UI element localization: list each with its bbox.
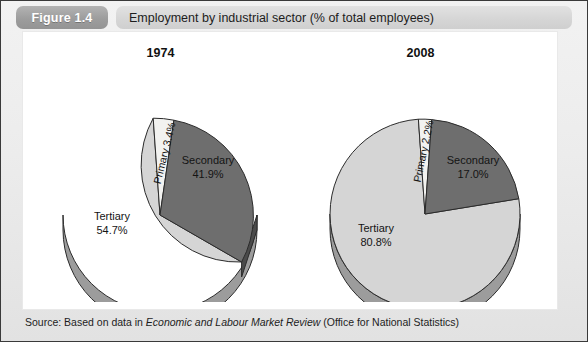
pie-label-secondary-1974: Secondary <box>182 154 235 166</box>
pie-slice-secondary-1974 <box>160 120 253 262</box>
pie-value-tertiary-1974: 54.7% <box>96 224 127 236</box>
pie-chart-2008: 2008 Primary 2.2% Secondary 17.0% Tertia… <box>288 32 553 309</box>
source-suffix: (Office for National Statistics) <box>320 316 459 328</box>
figure-container: Figure 1.4 Employment by industrial sect… <box>0 0 588 342</box>
pie-title-1974: 1974 <box>28 46 293 60</box>
source-prefix: Source: Based on data in <box>25 316 146 328</box>
pie-value-secondary-1974: 41.9% <box>192 168 223 180</box>
pie-label-secondary-2008: Secondary <box>447 154 500 166</box>
pie-value-secondary-2008: 17.0% <box>457 168 488 180</box>
source-publication-title: Economic and Labour Market Review <box>146 316 321 328</box>
figure-source-note: Source: Based on data in Economic and La… <box>25 316 459 328</box>
pie-svg-2008: Primary 2.2% Secondary 17.0% Tertiary 80… <box>288 62 553 302</box>
pie-slice-secondary-2008 <box>425 120 519 214</box>
chart-panel: 1974 Primary 3.4% Secondary 41.9% Tertia… <box>23 32 557 309</box>
figure-title-bar: Employment by industrial sector (% of to… <box>116 6 572 29</box>
pie-label-tertiary-2008: Tertiary <box>358 222 395 234</box>
pie-chart-1974: 1974 Primary 3.4% Secondary 41.9% Tertia… <box>28 32 293 309</box>
pie-label-tertiary-1974: Tertiary <box>94 210 131 222</box>
figure-number-badge: Figure 1.4 <box>16 6 108 29</box>
figure-header: Figure 1.4 Employment by industrial sect… <box>16 6 572 29</box>
pie-svg-1974: Primary 3.4% Secondary 41.9% Tertiary 54… <box>28 62 293 302</box>
pie-title-2008: 2008 <box>288 46 553 60</box>
pie-value-tertiary-2008: 80.8% <box>360 236 391 248</box>
figure-title: Employment by industrial sector (% of to… <box>116 11 434 25</box>
